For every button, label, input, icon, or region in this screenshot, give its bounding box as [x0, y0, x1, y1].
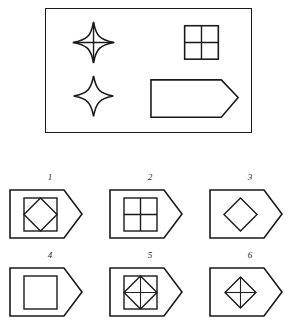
- puzzle-root: 1 2: [0, 0, 300, 332]
- option-5[interactable]: 5: [103, 250, 197, 324]
- option-2[interactable]: 2: [103, 172, 197, 246]
- stimulus-figures: [46, 9, 251, 132]
- option-3-label: 3: [203, 172, 297, 183]
- option-5-figure: [106, 262, 194, 322]
- option-5-label: 5: [103, 250, 197, 261]
- pentagon-arrow-outline: [210, 190, 282, 238]
- option-6[interactable]: 6: [203, 250, 297, 324]
- option-1[interactable]: 1: [3, 172, 97, 246]
- option-3[interactable]: 3: [203, 172, 297, 246]
- answer-options: 1 2: [0, 172, 300, 332]
- option-2-label: 2: [103, 172, 197, 183]
- option-3-figure: [206, 184, 294, 244]
- inner-square: [24, 198, 57, 231]
- option-row-1: 1 2: [0, 172, 300, 250]
- option-1-label: 1: [3, 172, 97, 183]
- four-pointed-star-plain-icon: [74, 76, 114, 116]
- option-1-svg: [6, 184, 94, 244]
- option-2-svg: [106, 184, 194, 244]
- option-4[interactable]: 4: [3, 250, 97, 324]
- option-2-figure: [106, 184, 194, 244]
- four-pointed-star-with-cross-icon: [73, 22, 115, 63]
- inner-square: [24, 276, 57, 309]
- square-quartered-icon: [185, 26, 219, 59]
- option-6-figure: [206, 262, 294, 322]
- inner-diamond: [24, 198, 57, 231]
- option-row-2: 4 5: [0, 250, 300, 328]
- option-6-label: 6: [203, 250, 297, 261]
- option-4-svg: [6, 262, 94, 322]
- option-1-figure: [6, 184, 94, 244]
- option-3-svg: [206, 184, 294, 244]
- option-5-svg: [106, 262, 194, 322]
- option-4-figure: [6, 262, 94, 322]
- pentagon-arrow-plain-icon: [151, 80, 238, 117]
- stimulus-panel: [45, 8, 252, 133]
- inner-diamond: [224, 198, 257, 231]
- option-6-svg: [206, 262, 294, 322]
- option-4-label: 4: [3, 250, 97, 261]
